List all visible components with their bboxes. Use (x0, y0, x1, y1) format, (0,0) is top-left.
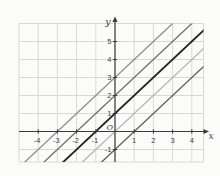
x-tick-label: 4 (190, 136, 194, 145)
x-tick-label: 2 (151, 136, 155, 145)
x-tick-label: 1 (132, 136, 136, 145)
x-tick-label: -3 (53, 136, 60, 145)
y-tick-label: 5 (107, 37, 111, 46)
x-tick-label: 3 (171, 136, 175, 145)
y-axis-label: y (104, 16, 111, 27)
y-tick-label: 3 (107, 73, 111, 82)
x-tick-label: -1 (91, 136, 98, 145)
graph-figure: -4-3-2-11234-112345Oyx (0, 0, 220, 176)
y-tick-label: -1 (105, 145, 112, 154)
x-tick-label: -2 (72, 136, 79, 145)
x-tick-label: -4 (34, 136, 41, 145)
y-tick-label: 2 (107, 91, 111, 100)
y-tick-label: 4 (107, 55, 111, 64)
origin-label: O (106, 123, 113, 132)
y-tick-label: 1 (107, 109, 111, 118)
coordinate-grid-chart: -4-3-2-11234-112345Oyx (0, 0, 220, 176)
x-axis-label: x (209, 131, 214, 141)
